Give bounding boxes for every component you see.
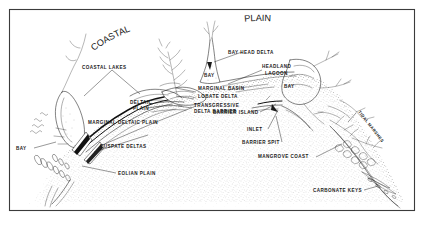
label-bay-right: BAY <box>284 84 295 89</box>
label-barrier-spit: BARRIER SPIT <box>242 140 280 145</box>
label-lobate-delta: LOBATE DELTA <box>198 94 238 99</box>
label-bay-head-delta: BAY HEAD DELTA <box>228 50 274 55</box>
title-word-plain: PLAIN <box>244 13 272 24</box>
label-bay-center: BAY <box>204 73 215 78</box>
label-deltaic-plain-line2: PLAIN <box>133 106 149 111</box>
coastal-plain-diagram: COASTAL PLAIN COASTAL LAKES DELTAIC PLAI… <box>0 0 424 248</box>
label-headland-line2: LAGOON <box>265 71 288 76</box>
label-transgressive-delta-barrier-line1: TRANSGRESSIVE <box>194 103 239 108</box>
marsh-squiggles <box>30 113 48 134</box>
label-cuspate-deltas: CUSPATE DELTAS <box>100 144 147 149</box>
dendritic-drainage-center <box>158 39 187 94</box>
label-carbonate-keys: CARBONATE KEYS <box>313 188 362 193</box>
title-word-coastal: COASTAL <box>89 24 131 53</box>
label-coastal-lakes: COASTAL LAKES <box>82 65 126 70</box>
figure-title-coastal-plain: COASTAL PLAIN <box>89 13 271 53</box>
label-marginal-basin: MARGINAL BASIN <box>198 86 245 91</box>
label-barrier-island: BARRIER ISLAND <box>213 110 259 115</box>
label-bay-left: BAY <box>16 146 27 151</box>
label-mangrove-coast: MANGROVE COAST <box>258 154 309 159</box>
label-eolian-plain: EOLIAN PLAIN <box>118 171 156 176</box>
label-inlet: INLET <box>247 127 263 132</box>
label-deltaic-plain-line1: DELTAIC <box>130 100 153 105</box>
label-headland-line1: HEADLAND <box>262 64 292 69</box>
label-marginal-deltaic-plain: MARGINAL DELTAIC PLAIN <box>88 120 158 125</box>
diagram-canvas: COASTAL PLAIN COASTAL LAKES DELTAIC PLAI… <box>0 0 424 248</box>
